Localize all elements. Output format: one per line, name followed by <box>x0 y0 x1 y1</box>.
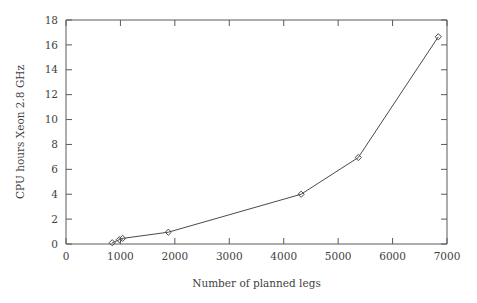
x-tick-label-3000: 3000 <box>216 250 243 262</box>
y-tick-label-12: 12 <box>45 88 58 100</box>
y-tick-label-8: 8 <box>51 138 58 150</box>
x-tick-label-2000: 2000 <box>161 250 188 262</box>
y-tick-label-4: 4 <box>51 188 58 200</box>
cpu-hours-vs-planned-legs-chart: 024681012141618 010002000300040005000600… <box>0 0 477 303</box>
y-tick-label-6: 6 <box>51 163 58 175</box>
y-tick-label-2: 2 <box>51 213 58 225</box>
y-tick-label-10: 10 <box>45 113 58 125</box>
y-tick-label-14: 14 <box>45 63 59 75</box>
x-axis-title: Number of planned legs <box>192 277 321 289</box>
y-tick-label-0: 0 <box>51 238 58 250</box>
x-tick-label-0: 0 <box>63 250 70 262</box>
x-tick-label-4000: 4000 <box>270 250 297 262</box>
y-tick-label-16: 16 <box>45 39 59 51</box>
chart-figure: 024681012141618 010002000300040005000600… <box>0 0 477 303</box>
x-tick-label-7000: 7000 <box>434 250 461 262</box>
x-tick-label-5000: 5000 <box>325 250 352 262</box>
x-tick-label-1000: 1000 <box>107 250 134 262</box>
y-tick-label-18: 18 <box>45 14 58 26</box>
y-axis-title: CPU hours Xeon 2.8 GHz <box>14 65 26 199</box>
x-tick-label-6000: 6000 <box>379 250 406 262</box>
